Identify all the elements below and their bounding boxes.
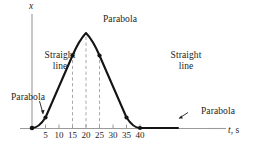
knot-t0 xyxy=(30,126,35,131)
knot-t35 xyxy=(124,115,128,119)
x-axis-label: t, s xyxy=(228,126,239,136)
x-axis-label-unit: s xyxy=(235,125,239,135)
annotation-parabola-top: Parabola xyxy=(60,14,180,25)
annotation-straight-line-left: Straight line xyxy=(30,50,90,71)
x-axis-label-symbol: t xyxy=(228,125,231,135)
annotation-parabola-right: Parabola xyxy=(189,106,247,117)
y-axis-label: x xyxy=(29,2,33,12)
knot-t5 xyxy=(43,115,47,119)
x-axis-ticks xyxy=(46,125,141,129)
x-tick-label-40: 40 xyxy=(130,131,150,140)
leader-arrow-parabola-left xyxy=(40,101,45,115)
motion-curve xyxy=(32,33,178,128)
leader-arrow-parabola-right xyxy=(179,113,188,119)
annotation-parabola-left: Parabola xyxy=(0,92,56,103)
knot-t25 xyxy=(97,53,101,57)
y-axis-label-text: x xyxy=(29,1,33,11)
parabola-straight-line-figure: Parabola Straight line Straight line Par… xyxy=(0,0,254,152)
annotation-straight-line-right: Straight line xyxy=(156,50,216,71)
